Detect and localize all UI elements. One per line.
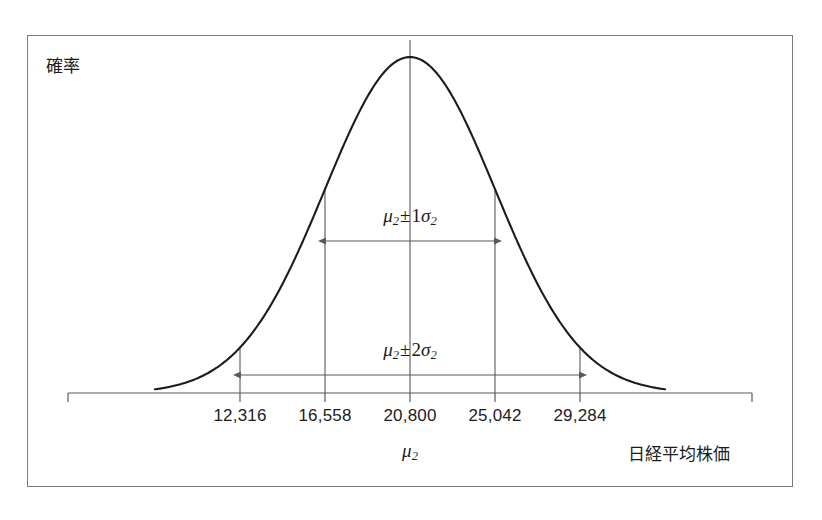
sigma-1-mu-glyph: μ (383, 205, 393, 226)
sigma-1-annotation-label: μ2±1σ2 (383, 205, 436, 229)
sigma-2-mu-subscript: 2 (393, 348, 399, 362)
sigma-2-multiplier: 2 (412, 339, 422, 360)
tick-label-4: 25,042 (468, 406, 521, 426)
tick-label-3: 20,800 (383, 406, 436, 426)
x-axis-title: 日経平均株価 (628, 440, 730, 465)
tick-label-2: 16,558 (298, 406, 351, 426)
sigma-2-mu-glyph: μ (383, 339, 393, 360)
sigma-1-sigma-glyph: σ (421, 205, 430, 226)
sigma-1-mu-subscript: 2 (393, 214, 399, 228)
sigma-2-sigma-glyph: σ (421, 339, 430, 360)
sigma-2-plusminus: ± (399, 339, 411, 360)
tick-label-1: 12,316 (213, 406, 266, 426)
sigma-2-sigma-subscript: 2 (430, 348, 436, 362)
y-axis-title: 確率 (46, 52, 80, 77)
figure-root: 12,316 16,558 20,800 25,042 29,284 μ2 μ2… (0, 0, 822, 520)
sigma-1-plusminus: ± (399, 205, 411, 226)
sigma-1-sigma-subscript: 2 (430, 214, 436, 228)
sigma-1-multiplier: 1 (412, 205, 422, 226)
mean-mu-subscript: 2 (412, 449, 418, 463)
mean-symbol-label: μ2 (402, 440, 418, 464)
sigma-2-annotation-label: μ2±2σ2 (383, 339, 436, 363)
tick-label-5: 29,284 (553, 406, 606, 426)
x-axis-ticks (240, 393, 580, 402)
mean-mu-glyph: μ (402, 440, 412, 461)
